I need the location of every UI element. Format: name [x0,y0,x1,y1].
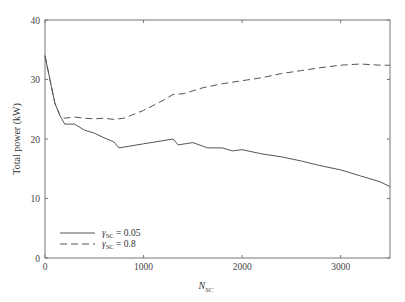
y-tick-label: 40 [31,16,41,26]
x-axis-ticks: 0100020003000 [43,20,351,272]
y-tick-label: 10 [31,194,41,204]
x-tick-label: 2000 [233,262,252,272]
y-axis-ticks: 010203040 [31,16,391,264]
y-axis-label: Total power (kW) [11,103,23,175]
line-chart: 010203040 0100020003000 Total power (kW)… [0,0,405,302]
legend-label-dashed: γSC = 0.8 [102,239,136,250]
x-tick-label: 3000 [331,262,350,272]
y-tick-label: 30 [31,75,41,85]
x-axis-label: NSC [198,280,214,294]
legend-label-solid: γSC = 0.05 [102,228,141,239]
plot-frame [45,20,390,258]
series-line-dashed [45,56,390,120]
series-line-solid [45,56,390,187]
x-tick-label: 1000 [134,262,153,272]
legend: γSC = 0.05 γSC = 0.8 [60,228,141,250]
data-series [45,56,390,187]
y-tick-label: 0 [35,254,40,264]
x-tick-label: 0 [43,262,48,272]
y-tick-label: 20 [31,135,41,145]
